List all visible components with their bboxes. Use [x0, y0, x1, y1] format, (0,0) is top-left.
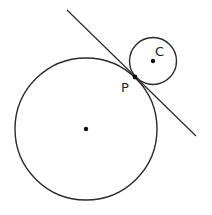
- label-c: C: [155, 44, 164, 59]
- tangent-point-dot: [133, 75, 138, 80]
- label-p: P: [121, 80, 129, 95]
- small-circle-center-dot: [151, 59, 155, 63]
- tangent-line: [67, 10, 196, 136]
- large-circle-center-dot: [84, 127, 88, 131]
- tangent-circles-diagram: C P: [0, 0, 212, 215]
